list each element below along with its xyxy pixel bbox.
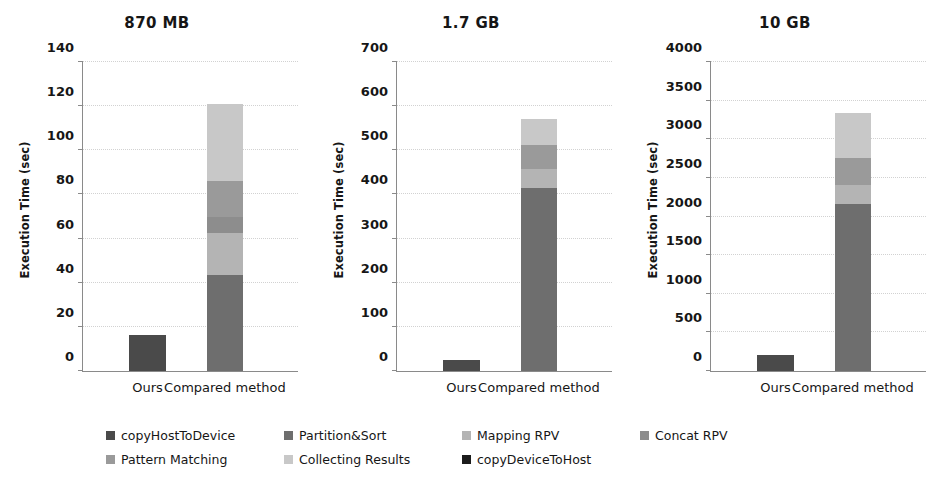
legend-row-2: Pattern MatchingCollecting ResultscopyDe… (106, 452, 836, 467)
y-axis-label: Execution Time (sec) (642, 0, 664, 420)
y-tick-label: 20 (56, 304, 83, 319)
y-tick-label: 4000 (666, 40, 711, 55)
plot-area: 05001000150020002500300035004000OursComp… (710, 62, 926, 372)
bar-segment (129, 335, 166, 371)
legend-swatch-icon (284, 455, 293, 464)
legend-item[interactable]: copyDeviceToHost (462, 452, 640, 467)
y-tick-label: 120 (47, 84, 83, 99)
bar-compared-method[interactable] (835, 113, 872, 371)
x-tick-label: Ours (760, 371, 791, 395)
y-axis-label-text: Execution Time (sec) (332, 141, 346, 278)
y-tick-label: 100 (361, 304, 397, 319)
bar-segment (207, 233, 244, 275)
bar-segment (207, 275, 244, 371)
x-tick-label: Ours (446, 371, 477, 395)
y-tick-label: 80 (56, 172, 83, 187)
legend-item[interactable]: Partition&Sort (284, 428, 462, 443)
stacked-bar-figure: 870 MBExecution Time (sec)02040608010012… (0, 0, 942, 494)
y-tick-label: 2000 (666, 194, 711, 209)
y-tick-label: 0 (65, 349, 83, 364)
y-tick-label: 600 (361, 84, 397, 99)
y-axis-label-text: Execution Time (sec) (18, 141, 32, 278)
y-tick-label: 500 (361, 128, 397, 143)
y-tick-label: 400 (361, 172, 397, 187)
bars-layer (397, 62, 612, 371)
plot-area: 0100200300400500600700OursCompared metho… (396, 62, 612, 372)
legend-swatch-icon (462, 431, 471, 440)
legend-row-1: copyHostToDevicePartition&SortMapping RP… (106, 428, 836, 443)
bar-compared-method[interactable] (521, 119, 558, 371)
y-tick-label: 40 (56, 260, 83, 275)
legend-label: Partition&Sort (299, 428, 386, 443)
y-axis-label: Execution Time (sec) (328, 0, 350, 420)
legend-item[interactable]: copyHostToDevice (106, 428, 284, 443)
bar-ours[interactable] (129, 335, 166, 371)
legend-swatch-icon (284, 431, 293, 440)
bar-segment (521, 119, 558, 144)
bar-segment (207, 181, 244, 216)
panel-title: 1.7 GB (314, 14, 628, 32)
bar-segment (521, 188, 558, 371)
bar-compared-method[interactable] (207, 104, 244, 372)
y-tick-label: 3000 (666, 117, 711, 132)
bar-segment (207, 217, 244, 234)
legend-swatch-icon (462, 455, 471, 464)
bar-segment (835, 204, 872, 371)
bar-segment (443, 360, 480, 371)
legend-item[interactable]: Mapping RPV (462, 428, 640, 443)
bar-segment (521, 145, 558, 169)
x-tick-label: Compared method (164, 371, 286, 395)
chart-panel-0: 870 MBExecution Time (sec)02040608010012… (0, 0, 314, 420)
panel-title: 10 GB (628, 14, 942, 32)
chart-panels: 870 MBExecution Time (sec)02040608010012… (0, 0, 942, 420)
legend-swatch-icon (106, 431, 115, 440)
y-tick-label: 500 (675, 310, 711, 325)
bar-segment (207, 104, 244, 182)
legend-label: Collecting Results (299, 452, 410, 467)
chart-panel-2: 10 GBExecution Time (sec)050010001500200… (628, 0, 942, 420)
y-tick-label: 140 (47, 40, 83, 55)
legend-item[interactable]: Pattern Matching (106, 452, 284, 467)
y-tick-label: 3500 (666, 78, 711, 93)
legend-label: Pattern Matching (121, 452, 227, 467)
bar-segment (757, 355, 794, 371)
legend-item[interactable]: Concat RPV (640, 428, 818, 443)
bar-segment (835, 113, 872, 159)
y-axis-label-text: Execution Time (sec) (646, 141, 660, 278)
y-tick-label: 1000 (666, 271, 711, 286)
legend-label: copyHostToDevice (121, 428, 235, 443)
y-tick-label: 0 (693, 349, 711, 364)
legend-item[interactable]: Collecting Results (284, 452, 462, 467)
y-tick-label: 200 (361, 260, 397, 275)
bars-layer (83, 62, 298, 371)
x-tick-label: Compared method (478, 371, 600, 395)
legend-swatch-icon (640, 431, 649, 440)
y-axis-label: Execution Time (sec) (14, 0, 36, 420)
bar-segment (835, 185, 872, 204)
y-tick-label: 1500 (666, 233, 711, 248)
bar-segment (521, 169, 558, 188)
x-tick-label: Ours (132, 371, 163, 395)
legend-swatch-icon (106, 455, 115, 464)
bar-ours[interactable] (443, 360, 480, 371)
y-tick-label: 2500 (666, 155, 711, 170)
y-tick-label: 0 (379, 349, 397, 364)
plot-area: 020406080100120140OursCompared method (82, 62, 298, 372)
chart-panel-1: 1.7 GBExecution Time (sec)01002003004005… (314, 0, 628, 420)
legend-label: copyDeviceToHost (477, 452, 591, 467)
y-tick-label: 100 (47, 128, 83, 143)
y-tick-label: 60 (56, 216, 83, 231)
bar-ours[interactable] (757, 355, 794, 371)
chart-legend: copyHostToDevicePartition&SortMapping RP… (0, 424, 942, 488)
panel-title: 870 MB (0, 14, 314, 32)
bar-segment (835, 158, 872, 185)
bars-layer (711, 62, 926, 371)
legend-label: Mapping RPV (477, 428, 559, 443)
y-tick-label: 300 (361, 216, 397, 231)
legend-label: Concat RPV (655, 428, 727, 443)
y-tick-label: 700 (361, 40, 397, 55)
x-tick-label: Compared method (792, 371, 914, 395)
